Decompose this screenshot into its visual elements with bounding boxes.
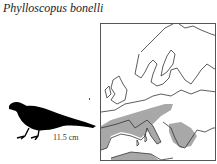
europe-map-icon	[101, 24, 216, 161]
species-name: Phylloscopus bonelli	[3, 1, 103, 16]
marker-dot	[89, 98, 90, 100]
bird-length-label: 11.5 cm	[53, 133, 78, 142]
bird-silhouette-icon	[5, 100, 97, 140]
range-map	[100, 23, 216, 161]
